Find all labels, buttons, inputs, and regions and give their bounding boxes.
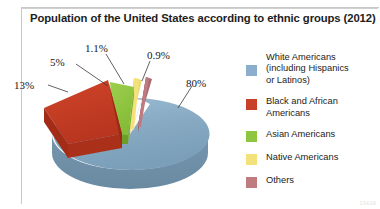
legend-item-others: Others xyxy=(246,175,378,189)
chart-screenshot: Population of the United States accordin… xyxy=(0,0,380,209)
legend-swatch-white-americans xyxy=(246,65,257,76)
legend-swatch-black-african-americans xyxy=(246,99,257,110)
legend-swatch-others xyxy=(246,177,257,188)
callout-others: 0.9% xyxy=(147,49,170,61)
legend-item-black-african-americans: Black and African Americans xyxy=(246,96,378,119)
callout-black-african-americans: 13% xyxy=(14,79,34,91)
title-divider xyxy=(22,8,378,9)
watermark-text: 13438 xyxy=(359,200,376,206)
legend-label-asian-americans: Asian Americans xyxy=(266,129,378,140)
legend-label-others: Others xyxy=(266,175,378,186)
legend-swatch-native-americans xyxy=(246,154,257,165)
legend-label-white-americans: White Americans (including Hispanics or … xyxy=(266,52,378,86)
callout-white-americans: 80% xyxy=(186,77,206,89)
legend-item-white-americans: White Americans (including Hispanics or … xyxy=(246,52,378,86)
chart-legend: White Americans (including Hispanics or … xyxy=(246,52,378,198)
page-title: Population of the United States accordin… xyxy=(30,12,374,24)
legend-label-black-african-americans: Black and African Americans xyxy=(266,96,378,119)
legend-label-native-americans: Native Americans xyxy=(266,152,378,163)
callout-native-americans: 1.1% xyxy=(85,42,108,54)
legend-item-native-americans: Native Americans xyxy=(246,152,378,166)
legend-item-asian-americans: Asian Americans xyxy=(246,129,378,143)
pie-chart: 13% 5% 1.1% 0.9% 80% xyxy=(22,34,237,204)
callout-asian-americans: 5% xyxy=(50,56,65,68)
legend-swatch-asian-americans xyxy=(246,131,257,142)
